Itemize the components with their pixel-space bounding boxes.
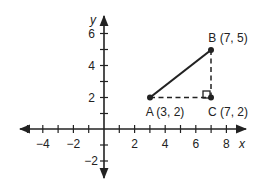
point-c-label: C (7, 2): [208, 105, 248, 119]
points: A (3, 2) B (7, 5) C (7, 2): [146, 31, 248, 119]
diagram-canvas: −4 −2 2 4 6 8 x 6 4 2 −2: [0, 0, 262, 194]
triangle: [150, 50, 211, 98]
y-tick-label: −2: [84, 154, 98, 168]
x-axis-label: x: [238, 137, 246, 151]
point-b: [208, 47, 214, 53]
y-tick-label: 6: [88, 27, 95, 41]
y-tick-label: 4: [88, 59, 95, 73]
point-a-label: A (3, 2): [146, 105, 185, 119]
point-c: [208, 95, 214, 101]
y-axis-label: y: [89, 13, 97, 27]
y-tick-label: 2: [88, 91, 95, 105]
segment-ab: [150, 50, 211, 98]
point-b-label: B (7, 5): [208, 31, 247, 45]
x-tick-label: 6: [192, 137, 199, 151]
coordinate-plane-diagram: −4 −2 2 4 6 8 x 6 4 2 −2: [0, 0, 262, 194]
point-a: [147, 95, 153, 101]
x-tick-label: 8: [223, 137, 230, 151]
y-axis: 6 4 2 −2 y: [84, 13, 108, 178]
x-tick-label: −2: [67, 137, 81, 151]
x-tick-label: 4: [162, 137, 169, 151]
x-tick-label: −4: [36, 137, 50, 151]
x-axis: −4 −2 2 4 6 8 x: [20, 125, 246, 151]
x-tick-label: 2: [131, 137, 138, 151]
